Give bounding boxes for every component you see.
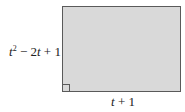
height-label-tail: + 1 bbox=[41, 44, 61, 59]
width-label-tail: + 1 bbox=[115, 94, 135, 109]
height-label: t2 − 2t + 1 bbox=[9, 45, 61, 58]
right-angle-marker bbox=[63, 84, 70, 91]
shaded-rectangle bbox=[62, 6, 181, 92]
width-label: t + 1 bbox=[111, 95, 135, 108]
height-label-mid: − 2 bbox=[17, 44, 37, 59]
